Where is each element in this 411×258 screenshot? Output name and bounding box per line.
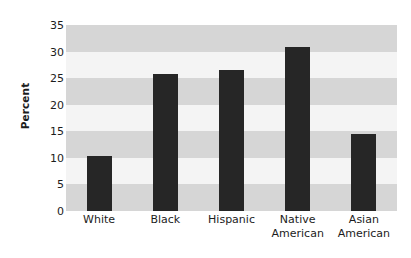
- x-axis-tick-label: AsianAmerican: [338, 213, 390, 241]
- y-axis-tick-label: 15: [50, 125, 64, 138]
- bar: [153, 74, 178, 211]
- x-axis-tick-label: Hispanic: [208, 213, 255, 227]
- y-axis-title-text: Percent: [19, 82, 31, 129]
- y-axis-tick-label: 20: [50, 98, 64, 111]
- bar: [87, 156, 112, 211]
- y-axis-title: Percent: [12, 0, 38, 211]
- bars-layer: [66, 25, 397, 211]
- bar: [351, 134, 376, 211]
- y-axis-tick-label: 0: [57, 205, 64, 218]
- plot-area: [66, 25, 397, 211]
- bar: [285, 47, 310, 211]
- y-axis-tick-labels: 05101520253035: [36, 0, 64, 258]
- x-axis-tick-label: NativeAmerican: [272, 213, 324, 241]
- y-axis-tick-label: 30: [50, 45, 64, 58]
- y-axis-tick-label: 25: [50, 72, 64, 85]
- x-axis-tick-label: Black: [150, 213, 180, 227]
- x-axis-tick-label: White: [83, 213, 115, 227]
- x-axis-tick-labels: WhiteBlackHispanicNativeAmericanAsianAme…: [66, 213, 397, 258]
- y-axis-tick-label: 35: [50, 19, 64, 32]
- y-axis-tick-label: 5: [57, 178, 64, 191]
- bar-chart-figure: Percent 05101520253035 WhiteBlackHispani…: [0, 0, 411, 258]
- bar: [219, 70, 244, 211]
- y-axis-tick-label: 10: [50, 151, 64, 164]
